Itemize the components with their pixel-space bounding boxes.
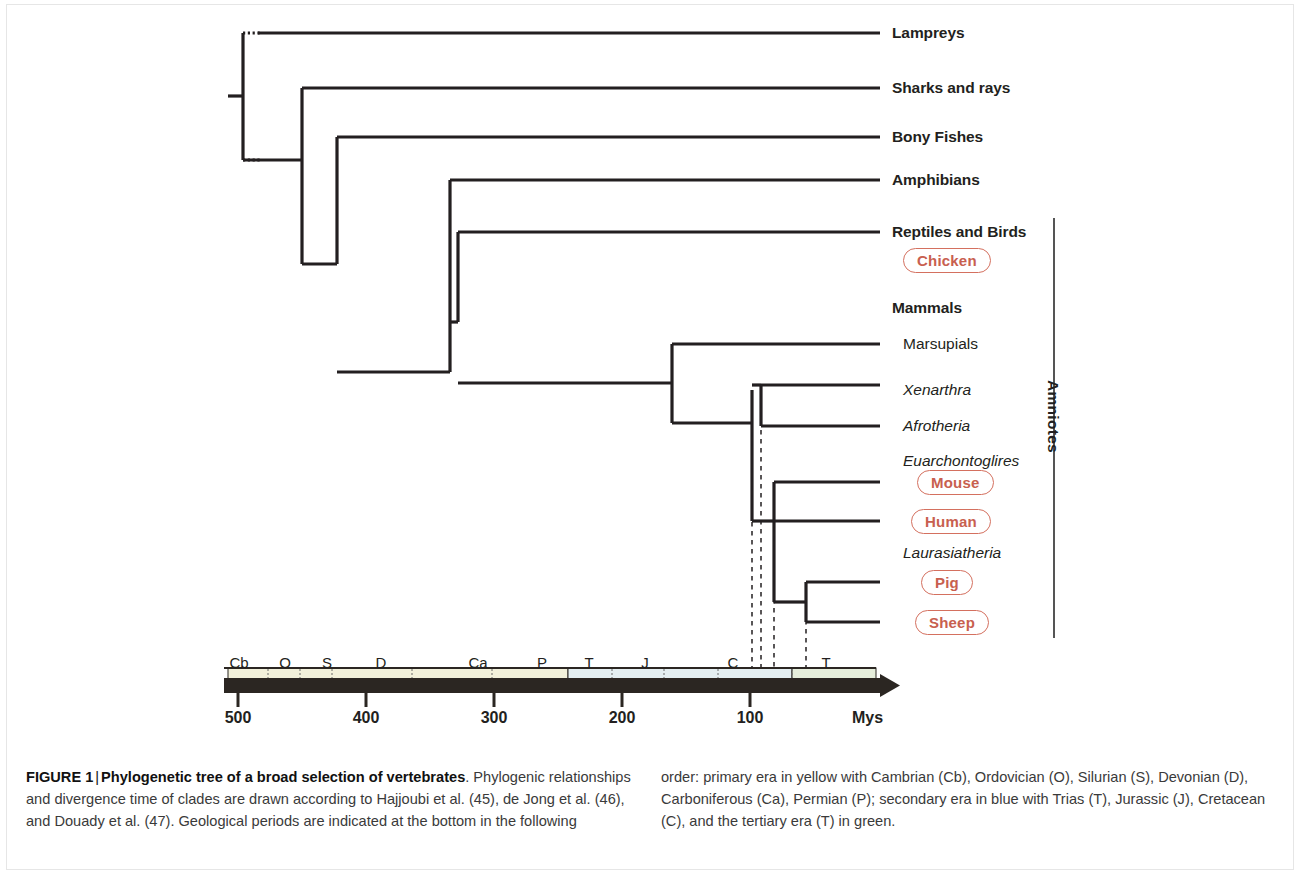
period-letter-cambrian: Cb — [229, 654, 248, 671]
axis-label-300: 300 — [481, 709, 508, 727]
species-pill-pig[interactable]: Pig — [921, 570, 973, 595]
timescale-bar — [224, 678, 880, 693]
period-letter-silurian: S — [322, 654, 332, 671]
figure-title: Phylogenetic tree of a broad selection o… — [101, 769, 465, 785]
axis-label-100: 100 — [737, 709, 764, 727]
axis-unit-label: Mys — [852, 709, 883, 727]
axis-label-500: 500 — [225, 709, 252, 727]
period-letter-cretacean: C — [728, 654, 739, 671]
species-pill-human[interactable]: Human — [911, 509, 991, 534]
period-letter-trias: T — [584, 654, 593, 671]
axis-label-200: 200 — [609, 709, 636, 727]
tree-drawing — [0, 0, 1302, 750]
amniotes-bracket-label: Amniotes — [1044, 380, 1062, 453]
species-pill-mouse[interactable]: Mouse — [917, 470, 994, 495]
figure-caption: FIGURE 1|Phylogenetic tree of a broad se… — [26, 766, 1276, 833]
taxon-label-bony-fishes: Bony Fishes — [892, 129, 983, 145]
caption-body-right: order: primary era in yellow with Cambri… — [661, 769, 1265, 829]
period-letter-devonian: D — [376, 654, 387, 671]
taxon-label-euarchontoglires: Euarchontoglires — [903, 453, 1019, 469]
taxon-label-xenarthra: Xenarthra — [903, 382, 971, 398]
figure-page: LampreysSharks and raysBony FishesAmphib… — [0, 0, 1302, 878]
taxon-label-lampreys: Lampreys — [892, 25, 964, 41]
species-pill-chicken[interactable]: Chicken — [903, 248, 991, 273]
caption-column-left: FIGURE 1|Phylogenetic tree of a broad se… — [26, 766, 631, 833]
taxon-label-laurasiatheria: Laurasiatheria — [903, 545, 1001, 561]
figure-number: FIGURE 1 — [26, 769, 93, 785]
taxon-label-amphibians: Amphibians — [892, 172, 980, 188]
taxon-label-sharks-and-rays: Sharks and rays — [892, 80, 1010, 96]
taxon-label-reptiles-and-birds: Reptiles and Birds — [892, 224, 1026, 240]
period-letter-carboniferous: Ca — [468, 654, 487, 671]
taxon-label-afrotheria: Afrotheria — [903, 418, 970, 434]
caption-column-right: order: primary era in yellow with Cambri… — [661, 766, 1266, 833]
root-dotted-stubs — [243, 33, 262, 160]
tree-branches — [228, 33, 880, 622]
taxon-label-marsupials: Marsupials — [903, 336, 978, 352]
period-letter-permian: P — [537, 654, 547, 671]
species-pill-sheep[interactable]: Sheep — [915, 610, 989, 635]
timescale-arrowhead — [880, 674, 900, 697]
period-letter-ordovician: O — [279, 654, 291, 671]
period-letter-tertiary: T — [821, 654, 830, 671]
axis-label-400: 400 — [353, 709, 380, 727]
taxon-label-mammals: Mammals — [892, 300, 962, 316]
period-letter-jurassic: J — [641, 654, 649, 671]
geological-timescale — [224, 668, 900, 707]
caption-separator: | — [93, 769, 101, 785]
phylogenetic-tree-figure: LampreysSharks and raysBony FishesAmphib… — [0, 0, 1302, 750]
